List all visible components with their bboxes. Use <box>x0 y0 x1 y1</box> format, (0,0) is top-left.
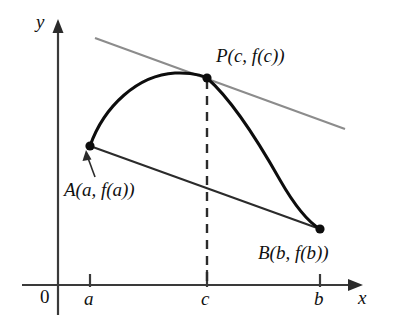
point-P-marker <box>202 73 211 82</box>
x-axis <box>22 279 363 291</box>
tick-label-b: b <box>314 289 324 308</box>
mean-value-theorem-figure: y x 0 a c b P(c, f(c)) A(a, f(a)) B(b, f… <box>0 0 396 333</box>
x-axis-label: x <box>358 288 366 307</box>
y-axis-label: y <box>36 12 44 31</box>
point-B-marker <box>315 224 324 233</box>
leader-arrow-to-A <box>83 150 96 177</box>
origin-label: 0 <box>40 287 50 306</box>
tick-label-c: c <box>201 289 209 308</box>
point-A-marker <box>85 141 94 150</box>
y-axis <box>53 19 64 315</box>
point-label-P: P(c, f(c)) <box>216 46 285 65</box>
tick-label-a: a <box>84 289 94 308</box>
point-label-B: B(b, f(b)) <box>258 243 329 262</box>
function-curve <box>90 73 320 229</box>
figure-canvas <box>0 0 396 333</box>
point-label-A: A(a, f(a)) <box>64 180 135 199</box>
